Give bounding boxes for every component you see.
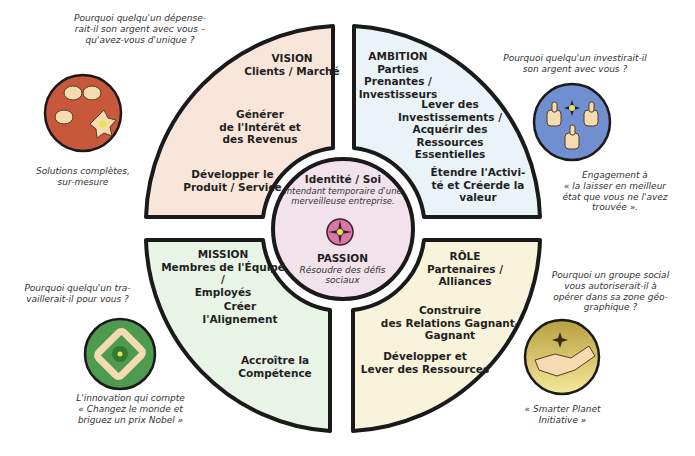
- text-line: Développer le: [170, 168, 295, 181]
- ambition-title: AMBITION: [358, 50, 438, 63]
- top-right-question: Pourquoi quelqu'un investirait-il son ar…: [490, 53, 660, 75]
- text-line: Compétence: [225, 367, 325, 380]
- text-line: Étendre l'Activi-: [428, 166, 528, 179]
- passion-title: PASSION: [285, 252, 400, 265]
- role-item-relations: Construire des Relations Gagnant- Gagnan…: [375, 304, 525, 342]
- caption-line: sur-mesure: [18, 177, 148, 188]
- mission-heading: MISSION Membres de l'Équipe / Employés: [158, 248, 288, 298]
- bottom-left-question: Pourquoi quelqu'un tra- vaillerait-il po…: [20, 283, 135, 305]
- top-left-question: Pourquoi quelqu'un dépense- rait-il son …: [60, 13, 220, 45]
- text-line: Employés: [158, 286, 288, 299]
- text-line: Ressources: [390, 136, 510, 149]
- top-left-caption: Solutions complètes, sur-mesure: [18, 166, 148, 188]
- caption-line: trouvée ».: [550, 202, 680, 213]
- identity-title: Identité / Soi: [278, 173, 408, 186]
- caption-line: « la laisser en meilleur: [550, 181, 680, 192]
- text-line: Alliances: [415, 275, 515, 288]
- text-line: Produit / Service: [170, 181, 295, 194]
- bottom-right-question: Pourquoi un groupe social vous autoriser…: [548, 270, 673, 313]
- question-line: vaillerait-il pour vous ?: [20, 294, 135, 305]
- question-line: rait-il son argent avec vous –: [60, 24, 220, 35]
- center-identity: Identité / Soi Intendant temporaire d'un…: [278, 173, 408, 206]
- caption-line: « Changez le monde et: [58, 404, 203, 415]
- compass-star-icon: [327, 219, 353, 245]
- vision-item-product: Développer le Produit / Service: [170, 168, 295, 193]
- text-line: Construire: [375, 304, 525, 317]
- text-line: Développer et: [355, 350, 495, 363]
- thumbs-up-icon: [534, 84, 610, 160]
- question-line: qu'avez-vous d'unique ?: [60, 35, 220, 46]
- text-line: Créer: [190, 300, 290, 313]
- text-line: l'Alignement: [190, 313, 290, 326]
- linked-hands-icon: [85, 319, 155, 389]
- question-line: Pourquoi quelqu'un tra-: [20, 283, 135, 294]
- bottom-right-caption: « Smarter Planet Initiative »: [515, 404, 610, 426]
- caption-line: briguez un prix Nobel »: [58, 415, 203, 426]
- caption-line: Solutions complètes,: [18, 166, 148, 177]
- text-line: Parties: [358, 63, 438, 76]
- text-line: Acquérir des: [390, 123, 510, 136]
- caption-line: L'innovation qui compte: [58, 393, 203, 404]
- handshake-icon: [525, 320, 599, 394]
- text-line: Membres de l'Équipe /: [158, 261, 288, 286]
- ambition-heading: AMBITION Parties Prenantes / Investisseu…: [358, 50, 438, 100]
- caption-line: Engagement à: [550, 170, 680, 181]
- text-line: Prenantes /: [358, 75, 438, 88]
- mission-item-alignment: Créer l'Alignement: [190, 300, 290, 325]
- question-line: graphique ?: [548, 302, 673, 313]
- center-passion: PASSION Résoudre des défis sociaux: [285, 252, 400, 286]
- top-right-caption: Engagement à « la laisser en meilleur ét…: [550, 170, 680, 213]
- caption-line: Initiative »: [515, 415, 610, 426]
- passion-line: Résoudre des défis: [285, 265, 400, 276]
- mission-title: MISSION: [158, 248, 288, 261]
- hands-flower-icon: [45, 75, 121, 151]
- caption-line: état que vous ne l'avez: [550, 192, 680, 203]
- role-heading: RÔLE Partenaires / Alliances: [415, 250, 515, 288]
- identity-line: merveilleuse entreprise.: [278, 196, 408, 206]
- bottom-left-caption: L'innovation qui compte « Changez le mon…: [58, 393, 203, 425]
- vision-title: VISION: [237, 52, 347, 65]
- role-title: RÔLE: [415, 250, 515, 263]
- question-line: son argent avec vous ?: [490, 64, 660, 75]
- identity-line: Intendant temporaire d'une: [278, 186, 408, 196]
- ambition-item-investments: Lever des Investissements / Acquérir des…: [390, 98, 510, 161]
- vision-heading: VISION Clients / Marché: [237, 52, 347, 77]
- text-line: Gagnant: [375, 329, 525, 342]
- caption-line: « Smarter Planet: [515, 404, 610, 415]
- text-line: Accroître la: [225, 354, 325, 367]
- passion-line: sociaux: [285, 275, 400, 286]
- text-line: Investissements /: [390, 111, 510, 124]
- text-line: Lever des Ressources: [355, 363, 495, 376]
- question-line: vous autoriserait-il à: [548, 281, 673, 292]
- question-line: Pourquoi quelqu'un investirait-il: [490, 53, 660, 64]
- role-item-resources: Développer et Lever des Ressources: [355, 350, 495, 375]
- vision-subtitle: Clients / Marché: [237, 65, 347, 78]
- ambition-item-value: Étendre l'Activi- té et Créerde la valeu…: [428, 166, 528, 204]
- vision-item-revenue: Générer de l'Intérêt et des Revenus: [205, 108, 315, 146]
- text-line: Essentielles: [390, 148, 510, 161]
- text-line: Lever des: [390, 98, 510, 111]
- text-line: des Revenus: [205, 133, 315, 146]
- mission-item-competence: Accroître la Compétence: [225, 354, 325, 379]
- text-line: de l'Intérêt et: [205, 121, 315, 134]
- text-line: té et Créerde la: [428, 179, 528, 192]
- text-line: des Relations Gagnant-: [375, 317, 525, 330]
- text-line: valeur: [428, 191, 528, 204]
- text-line: Générer: [205, 108, 315, 121]
- text-line: Partenaires /: [415, 263, 515, 276]
- question-line: Pourquoi quelqu'un dépense-: [60, 13, 220, 24]
- question-line: Pourquoi un groupe social: [548, 270, 673, 281]
- question-line: opérer dans sa zone géo-: [548, 292, 673, 303]
